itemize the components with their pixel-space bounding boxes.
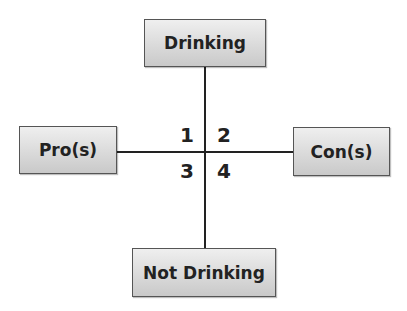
node-cons: Con(s) xyxy=(293,127,390,176)
node-pros: Pro(s) xyxy=(19,126,117,174)
vertical-axis-line xyxy=(204,66,206,249)
node-label: Drinking xyxy=(164,33,246,53)
node-drinking: Drinking xyxy=(144,19,266,67)
quadrant-3-label: 3 xyxy=(180,161,194,181)
node-not-drinking: Not Drinking xyxy=(132,248,276,297)
horizontal-axis-line xyxy=(116,151,294,153)
quadrant-2-label: 2 xyxy=(217,125,231,145)
node-label: Not Drinking xyxy=(143,263,265,283)
node-label: Con(s) xyxy=(311,142,373,162)
quadrant-4-label: 4 xyxy=(217,161,231,181)
quadrant-1-label: 1 xyxy=(180,125,194,145)
node-label: Pro(s) xyxy=(39,140,97,160)
